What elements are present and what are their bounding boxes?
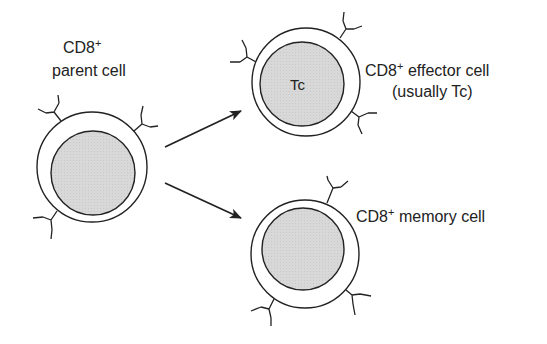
memory-cell-label: CD8+ memory cell [356, 206, 485, 225]
receptor-icon [251, 299, 274, 326]
receptor-icon [346, 290, 371, 315]
effector-cell: Tc CD8+ effector cell (usually Tc) [230, 12, 489, 136]
memory-cell-nucleus [262, 208, 344, 290]
arrow-to-memory [165, 183, 241, 218]
receptor-icon [327, 176, 348, 203]
arrow-to-effector [165, 111, 241, 147]
effector-cell-label-line2: (usually Tc) [392, 83, 473, 100]
diagram-canvas: CD8+ parent cell Tc [0, 0, 547, 344]
receptor-icon [134, 106, 158, 131]
memory-cell: CD8+ memory cell [251, 176, 485, 326]
receptor-icon [38, 95, 61, 121]
receptor-icon [351, 111, 377, 134]
receptor-icon [340, 12, 362, 38]
parent-cell-label-line1: CD8+ [63, 37, 101, 56]
parent-cell: CD8+ parent cell [33, 37, 158, 239]
receptor-icon [33, 211, 57, 239]
diagram-svg: CD8+ parent cell Tc [0, 0, 547, 344]
parent-cell-nucleus [51, 131, 135, 215]
effector-cell-inner-label: Tc [290, 76, 306, 93]
effector-cell-label-line1: CD8+ effector cell [365, 60, 489, 79]
receptor-icon [230, 40, 256, 62]
parent-cell-label-line2: parent cell [52, 62, 126, 79]
